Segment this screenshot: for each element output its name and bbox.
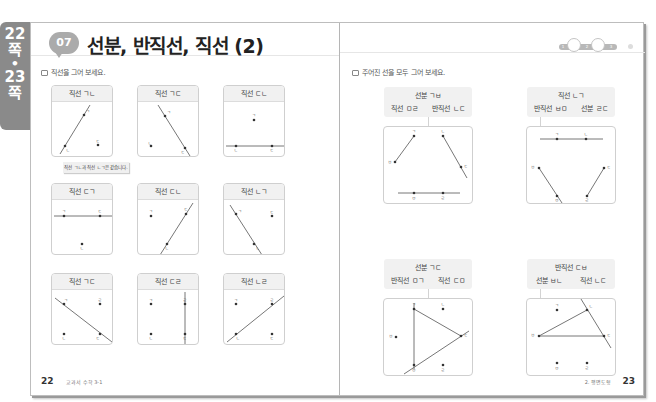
svg-text:ㄴ: ㄴ [441,129,445,134]
textbook-spread: 07 선분, 반직선, 직선 (2) 직선을 그어 보세요. 직선 ㄱㄴ ㄱㄴㄷ… [30,22,644,396]
line-diagram: ㄱㄹㄴㄷ [138,290,199,345]
exercise-card: 직선 ㄷㄹ ㄱㄹㄴㄷ [137,273,199,345]
svg-text:ㄹ: ㄹ [183,298,187,303]
svg-text:ㄴ: ㄴ [256,246,260,251]
line-diagram: ㄱㄴㅂㄷㅁㄹ [527,127,617,205]
svg-text:ㄹ: ㄹ [441,196,445,201]
page-range-tab: 22 쪽 • 23 쪽 [0,22,30,130]
progress-step-bubble [567,38,581,52]
svg-text:ㄴ: ㄴ [234,148,238,153]
svg-text:ㄷ: ㄷ [184,207,188,212]
connector [428,117,429,126]
svg-text:ㄴ: ㄴ [66,148,70,153]
problem-header: 선분 ㄱㅂ 직선 ㅁㄹ반직선 ㄴㄷ [384,87,472,117]
problem-line-right: 반직선 ㄴㄷ [432,103,464,113]
card-label: 직선 ㄴㄱ [224,184,284,200]
drawing-card: ㄱㄴㅂㄷㅁㄹ [383,298,473,376]
svg-text:ㄴ: ㄴ [149,336,153,341]
svg-text:ㄹ: ㄹ [585,366,589,371]
svg-text:ㅂ: ㅂ [531,333,535,338]
svg-text:ㄷ: ㄷ [270,336,274,341]
exercise-card: 직선 ㄴㄹ ㄱㄹㄴㄷ [223,273,285,345]
line-diagram: ㄱㄹㄴㄷ [52,290,113,345]
question-icon [352,70,359,76]
svg-text:ㄷ: ㄷ [96,139,100,144]
svg-text:ㄱ: ㄱ [234,298,238,303]
right-page: 1 2 3 주어진 선을 모두 그어 보세요. 선분 ㄱㅂ 직선 ㅁㄹ반직선 ㄴ… [339,23,645,395]
progress-step: 2 [583,44,591,50]
drawing-card: ㄱㄴㅂㄷㅁㄹ [526,298,616,376]
problem-header: 선분 ㄱㄷ 반직선 ㅁㄱ직선 ㄷㅁ [384,259,472,289]
svg-text:ㄷ: ㄷ [183,336,187,341]
svg-text:ㅂ: ㅂ [531,165,535,170]
svg-text:ㄹ: ㄹ [270,298,274,303]
line-diagram: ㄱㄷㄴ [138,200,199,255]
svg-text:ㄴ: ㄴ [80,246,84,251]
problem-line-right: 직선 ㄴㄷ [580,275,606,285]
card-label: 직선 ㄱㄷ [52,274,112,290]
instruction-text: 주어진 선을 모두 그어 보세요. [362,69,445,77]
instruction-left: 직선을 그어 보세요. [41,67,106,77]
svg-text:ㄱ: ㄱ [238,209,242,214]
card-label: 직선 ㄴㄹ [224,274,284,290]
svg-text:ㄷ: ㄷ [98,209,102,214]
page-number-left: 22 [41,376,54,386]
exercise-card: 직선 ㄱㄷ ㄱㄷㄴ [137,85,199,157]
connector [540,117,541,126]
svg-text:ㄷ: ㄷ [607,333,611,338]
svg-text:ㄱ: ㄱ [412,129,416,134]
progress-end-dot [628,44,633,49]
svg-text:ㅁ: ㅁ [555,366,559,371]
page-from: 22 [0,26,30,42]
exercise-card: 직선 ㄴㄱ ㄱㄷㄴ [223,183,285,255]
svg-text:ㄴ: ㄴ [148,141,152,146]
problem-line-right: 직선 ㄷㅁ [438,275,464,285]
svg-text:ㄷ: ㄷ [464,333,468,338]
exercise-card: 직선 ㄷㄴ ㄱㄴㄷ [223,85,285,157]
instruction-text: 직선을 그어 보세요. [51,69,106,77]
drawing-card: ㄱㄴㅂㄷㅁㄹ [526,126,616,204]
svg-text:ㅁ: ㅁ [412,196,416,201]
line-diagram: ㄱㄹㄴㄷ [224,290,285,345]
card-label: 직선 ㄷㄹ [138,274,198,290]
svg-text:ㄷ: ㄷ [96,336,100,341]
progress-indicator: 1 2 3 [555,36,633,52]
svg-text:ㄴ: ㄴ [236,336,240,341]
header-divider [340,52,645,53]
lesson-badge: 07 [49,32,79,54]
connector [428,289,429,298]
instruction-right: 주어진 선을 모두 그어 보세요. [352,67,445,77]
card-label: 직선 ㄷㄴ [224,86,284,102]
problem-line-left: 선분 ㅂㄴ [536,275,562,285]
svg-text:ㄱ: ㄱ [149,298,153,303]
svg-text:ㅂ: ㅂ [388,160,392,165]
svg-text:ㅁ: ㅁ [555,198,559,203]
svg-text:ㄱ: ㄱ [555,132,559,137]
svg-text:ㄱ: ㄱ [555,303,559,308]
problem-header: 반직선 ㄷㅂ 선분 ㅂㄴ직선 ㄴㄷ [527,259,615,289]
problem-line-top: 선분 ㄱㄷ [384,262,472,272]
svg-text:ㄷ: ㄷ [464,164,468,169]
svg-text:ㅁ: ㅁ [412,368,416,373]
line-diagram: ㄱㄴㅂㄷㅁㄹ [384,299,474,377]
line-diagram: ㄱㄷㄴ [52,200,113,255]
progress-step-bubble [591,38,605,52]
exercise-card: 직선 ㄷㄱ ㄱㄷㄴ [51,183,113,255]
svg-text:ㄱ: ㄱ [252,113,256,118]
svg-text:ㅂ: ㅂ [389,334,393,339]
svg-text:ㄹ: ㄹ [98,298,102,303]
svg-text:ㄹ: ㄹ [585,198,589,203]
card-label: 직선 ㄱㄷ [138,86,198,102]
svg-text:ㄱ: ㄱ [64,298,68,303]
page-number-right: 23 [622,376,635,386]
left-page: 07 선분, 반직선, 직선 (2) 직선을 그어 보세요. 직선 ㄱㄴ ㄱㄴㄷ… [31,23,339,395]
page-to-unit: 쪽 [0,85,30,101]
question-icon [41,70,48,76]
problem-line-right: 선분 ㄹㄷ [581,103,607,113]
page-title: 선분, 반직선, 직선 (2) [87,31,263,58]
svg-text:ㄷ: ㄷ [270,210,274,215]
svg-text:ㄱ: ㄱ [149,209,153,214]
problem-line-top: 선분 ㄱㅂ [384,90,472,100]
problem-line-left: 직선 ㅁㄹ [391,103,417,113]
page-to: 23 [0,69,30,85]
